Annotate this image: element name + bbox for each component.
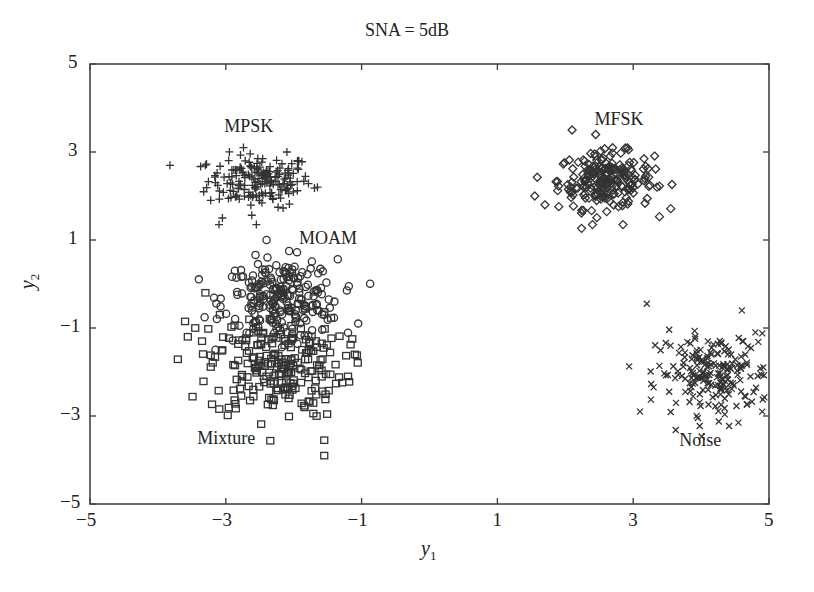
data-point [676, 350, 682, 356]
data-point [293, 187, 301, 195]
data-point [238, 290, 245, 297]
data-point [726, 423, 732, 429]
data-point [199, 338, 206, 344]
data-point [555, 203, 563, 211]
data-point [658, 347, 664, 353]
data-point [651, 384, 657, 390]
data-point [189, 393, 196, 399]
cluster-label-mfsk: MFSK [594, 109, 643, 130]
data-point [202, 290, 209, 296]
data-point [200, 351, 207, 357]
data-point [682, 350, 688, 356]
data-point [687, 399, 693, 405]
data-point [200, 378, 207, 384]
data-point [236, 151, 244, 159]
y-tick-label: 1 [68, 227, 78, 249]
data-point [166, 161, 174, 169]
data-point [248, 211, 256, 219]
data-point [747, 374, 753, 380]
data-point [656, 363, 662, 369]
data-point [219, 188, 227, 196]
cluster-label-moam: MOAM [299, 228, 357, 249]
data-point [578, 224, 586, 232]
data-point [739, 307, 745, 313]
data-point [252, 251, 259, 258]
data-point [759, 409, 765, 415]
data-point [569, 202, 577, 210]
y-axis-label: y2 [16, 274, 43, 289]
data-point [232, 405, 239, 411]
y-tick-label: −1 [60, 315, 80, 337]
cluster-label-noise: Noise [679, 430, 721, 451]
data-point [224, 412, 231, 418]
data-point [273, 262, 280, 269]
data-point [239, 144, 247, 152]
data-point [716, 419, 722, 425]
cluster-label-mpsk: MPSK [224, 116, 273, 137]
data-point [301, 172, 309, 180]
data-point [666, 327, 672, 333]
data-point [651, 152, 659, 160]
data-point [722, 405, 728, 411]
x-tick-label: −3 [212, 509, 232, 531]
data-point [215, 387, 222, 393]
data-point [209, 401, 216, 407]
data-point [592, 130, 600, 138]
data-point [652, 342, 658, 348]
data-point [174, 356, 181, 362]
data-point [241, 157, 249, 165]
data-point [692, 328, 698, 334]
data-point [668, 409, 674, 415]
plot-frame [90, 64, 769, 504]
data-point [207, 196, 215, 204]
data-point [705, 338, 711, 344]
data-point [205, 326, 212, 332]
data-point [722, 411, 728, 417]
data-point [666, 389, 672, 395]
data-point [694, 362, 700, 368]
x-axis-label-subscript: 1 [430, 548, 437, 563]
data-point [321, 452, 328, 458]
data-point [761, 394, 767, 400]
data-point [672, 375, 678, 381]
data-point [227, 179, 235, 187]
x-tick-label: 3 [628, 509, 638, 531]
data-point [648, 397, 654, 403]
data-point [266, 163, 274, 171]
data-point [697, 423, 703, 429]
data-point [225, 404, 232, 410]
data-point [225, 157, 233, 165]
data-point [541, 201, 549, 209]
data-point [263, 236, 270, 243]
data-point [640, 155, 648, 163]
data-point [293, 164, 301, 172]
data-point [588, 207, 596, 215]
data-point [626, 363, 632, 369]
data-point [274, 203, 282, 211]
data-point [225, 148, 233, 156]
y-axis-label-subscript: 2 [27, 274, 42, 281]
data-point [232, 315, 239, 322]
data-point [710, 394, 716, 400]
data-point [267, 438, 274, 444]
data-point [285, 200, 293, 208]
data-point [207, 364, 214, 370]
data-point [228, 273, 235, 280]
data-point [670, 363, 676, 369]
data-point [252, 221, 260, 229]
data-point [706, 401, 712, 407]
data-point [619, 221, 627, 229]
data-point [321, 437, 328, 443]
data-point [336, 333, 343, 339]
data-point [308, 258, 315, 265]
data-point [713, 363, 719, 369]
data-point [215, 195, 223, 203]
y-tick-label: −3 [60, 403, 80, 425]
data-point [569, 165, 577, 173]
data-point [307, 265, 314, 272]
data-point [637, 409, 643, 415]
data-point [217, 295, 224, 302]
data-point [738, 389, 744, 395]
data-point [733, 403, 739, 409]
data-point [694, 413, 700, 419]
